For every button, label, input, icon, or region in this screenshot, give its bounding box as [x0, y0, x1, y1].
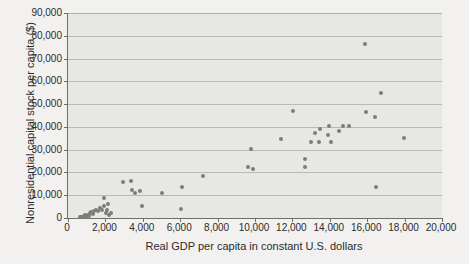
x-axis-tick-label: 0 — [64, 222, 70, 233]
x-axis-title: Real GDP per capita in constant U.S. dol… — [67, 240, 441, 252]
data-point — [402, 136, 406, 140]
data-point — [129, 179, 133, 183]
x-axis-tick-label: 10,000 — [239, 222, 270, 233]
data-point — [364, 110, 368, 114]
data-point — [341, 124, 345, 128]
data-point — [106, 202, 110, 206]
x-axis-tick-label: 8,000 — [204, 222, 229, 233]
x-axis-tick-label: 18,000 — [388, 222, 419, 233]
y-axis-tick-label: 30,000 — [31, 145, 62, 155]
y-axis-tick — [64, 172, 68, 173]
x-axis-tick-label: 6,000 — [167, 222, 192, 233]
data-point — [100, 208, 104, 212]
data-point — [374, 185, 378, 189]
x-axis-tick-label: 16,000 — [351, 222, 382, 233]
data-point — [121, 180, 125, 184]
y-axis-title: Nonresidential capital stock per capita … — [24, 21, 36, 226]
data-point — [180, 185, 184, 189]
x-axis-tick-label: 20,000 — [426, 222, 457, 233]
data-point — [363, 42, 367, 46]
data-point — [140, 204, 144, 208]
y-axis-tick — [64, 127, 68, 128]
y-axis-tick-label: 60,000 — [31, 76, 62, 86]
data-point — [160, 191, 164, 195]
data-point — [337, 129, 341, 133]
plot-area — [67, 13, 442, 219]
data-point — [246, 165, 250, 169]
data-point — [373, 115, 377, 119]
y-axis-tick — [64, 36, 68, 37]
data-point — [133, 191, 137, 195]
data-point — [326, 133, 330, 137]
y-axis-tick-label: 0 — [56, 213, 62, 223]
data-point — [309, 140, 313, 144]
y-axis-tick-label: 90,000 — [31, 8, 62, 18]
y-axis-tick-label: 40,000 — [31, 122, 62, 132]
y-axis-title-wrapper: Nonresidential capital stock per capita … — [14, 13, 15, 218]
data-point — [318, 127, 322, 131]
y-axis-tick — [64, 59, 68, 60]
data-point — [329, 140, 333, 144]
x-axis-tick-label: 2,000 — [92, 222, 117, 233]
data-point — [379, 91, 383, 95]
data-point — [109, 211, 113, 215]
y-axis-tick-label: 20,000 — [31, 167, 62, 177]
y-axis-tick — [64, 195, 68, 196]
data-point — [179, 207, 183, 211]
data-point — [313, 131, 317, 135]
data-point — [138, 189, 142, 193]
data-point — [291, 109, 295, 113]
x-axis-tick-label: 12,000 — [276, 222, 307, 233]
y-axis-tick-label: 50,000 — [31, 99, 62, 109]
data-point — [347, 124, 351, 128]
scatter-chart-figure: 010,00020,00030,00040,00050,00060,00070,… — [0, 0, 469, 264]
data-point — [249, 147, 253, 151]
data-point — [201, 174, 205, 178]
y-axis-tick — [64, 81, 68, 82]
y-axis-tick — [64, 104, 68, 105]
data-points-layer — [68, 13, 442, 218]
data-point — [327, 124, 331, 128]
data-point — [251, 167, 255, 171]
y-axis-tick-label: 70,000 — [31, 54, 62, 64]
y-axis-tick — [64, 150, 68, 151]
data-point — [317, 140, 321, 144]
y-axis-tick — [64, 13, 68, 14]
y-axis-tick-label: 10,000 — [31, 190, 62, 200]
data-point — [303, 165, 307, 169]
y-axis-tick-label: 80,000 — [31, 31, 62, 41]
data-point — [279, 137, 283, 141]
x-axis-tick-label: 4,000 — [129, 222, 154, 233]
x-axis-tick-labels: 02,0004,0006,0008,00010,00012,00014,0001… — [67, 222, 441, 236]
data-point — [303, 157, 307, 161]
x-axis-tick-label: 14,000 — [314, 222, 345, 233]
data-point — [102, 196, 106, 200]
